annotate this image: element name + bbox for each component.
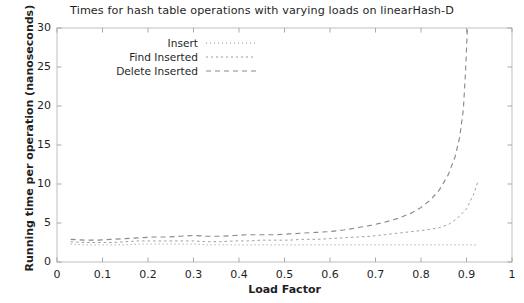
legend-item: Find Inserted xyxy=(62,50,257,64)
legend-item: Insert xyxy=(62,36,257,50)
chart-figure: Times for hash table operations with var… xyxy=(0,0,524,303)
legend-label-find-inserted: Find Inserted xyxy=(129,51,205,63)
legend: Insert Find Inserted Delete Inserted xyxy=(62,36,257,78)
legend-sample-find-inserted xyxy=(205,52,257,62)
legend-sample-insert xyxy=(205,38,257,48)
legend-item: Delete Inserted xyxy=(62,64,257,78)
legend-label-insert: Insert xyxy=(168,37,205,49)
legend-label-delete-inserted: Delete Inserted xyxy=(116,65,205,77)
legend-sample-delete-inserted xyxy=(205,66,257,76)
